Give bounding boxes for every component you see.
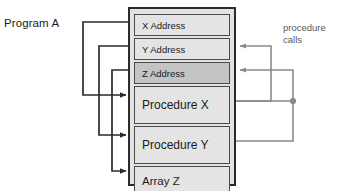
segment-x-address[interactable]: X Address (134, 14, 230, 36)
segment-array-z-label: Array Z (142, 175, 180, 187)
segment-y-address-label: Y Address (142, 44, 185, 55)
pointer-edge-y-address-to-procedure-y (99, 46, 131, 135)
diagram-canvas: Program A procedure calls X Address Y Ad… (0, 0, 344, 191)
segment-y-address[interactable]: Y Address (134, 38, 230, 60)
program-label: Program A (4, 17, 59, 29)
call-wire-junction-dot (290, 98, 296, 104)
segment-procedure-y-label: Procedure Y (142, 138, 209, 152)
memory-block: X Address Y Address Z Address Procedure … (128, 7, 236, 186)
segment-z-address-label: Z Address (142, 68, 185, 79)
pointer-edge-x-address-to-procedure-x (83, 22, 131, 95)
procedure-calls-annotation: procedure calls (283, 22, 326, 45)
segment-procedure-x-label: Procedure X (142, 98, 209, 112)
segment-x-address-label: X Address (142, 20, 185, 31)
procedure-calls-line-2: calls (283, 34, 326, 46)
segment-array-z[interactable]: Array Z (134, 166, 230, 191)
call-edge-procedure-x-to-y-address (236, 46, 271, 101)
segment-procedure-x[interactable]: Procedure X (134, 86, 230, 124)
segment-procedure-y[interactable]: Procedure Y (134, 126, 230, 164)
call-edge-procedure-y-to-z-address (236, 70, 293, 141)
segment-z-address[interactable]: Z Address (134, 62, 230, 84)
procedure-calls-line-1: procedure (283, 22, 326, 34)
